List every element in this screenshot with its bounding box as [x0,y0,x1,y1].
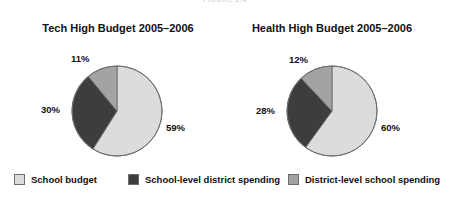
pie-svg-health-high [286,65,378,157]
pie-svg-tech-high [71,65,163,157]
legend-label-school-level-district-spending: School-level district spending [145,174,280,185]
legend-item-school-budget: School budget [14,170,97,188]
pie-label-health-high-school-level: 28% [256,105,275,116]
running-head: FIGURE 2.4 [0,0,450,3]
pie-label-health-high-district-level: 12% [289,54,308,65]
pie-label-tech-high-school-budget: 59% [166,122,185,133]
pie-chart-health-high [286,65,378,157]
light-gray-swatch-icon [14,174,25,185]
figure-container: FIGURE 2.4 Tech High Budget 2005–2006 He… [0,0,450,199]
legend-label-district-level-school-spending: District-level school spending [305,174,440,185]
dark-gray-swatch-icon [128,174,139,185]
chart-title-health-high: Health High Budget 2005–2006 [232,22,432,34]
chart-title-tech-high: Tech High Budget 2005–2006 [18,22,218,34]
legend-item-district-level-school-spending: District-level school spending [288,170,440,188]
medium-gray-swatch-icon [288,174,299,185]
pie-chart-tech-high [71,65,163,157]
pie-label-tech-high-school-level: 30% [41,104,60,115]
pie-label-tech-high-district-level: 11% [71,53,90,64]
pie-label-health-high-school-budget: 60% [381,122,400,133]
legend-label-school-budget: School budget [31,174,97,185]
legend-item-school-level-district-spending: School-level district spending [128,170,280,188]
legend: School budget School-level district spen… [0,170,450,190]
